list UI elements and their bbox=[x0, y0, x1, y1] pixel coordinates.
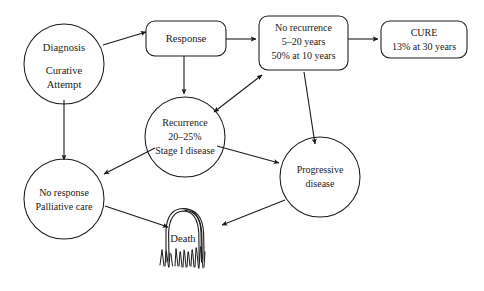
no-response-circle bbox=[24, 159, 104, 239]
recurrence-label-line2: 20–25% bbox=[168, 131, 201, 142]
no-response-label-line2: Palliative care bbox=[36, 201, 93, 212]
diagnosis-label-line2: Curative bbox=[46, 65, 83, 76]
node-response[interactable]: Response bbox=[146, 21, 226, 56]
edge-no-recurrence-to-progressive bbox=[304, 72, 315, 144]
cure-label-line2: 13% at 30 years bbox=[392, 41, 456, 52]
diagnosis-label-line3: Attempt bbox=[47, 79, 82, 90]
death-label: Death bbox=[170, 233, 196, 244]
flow-diagram-canvas: Diagnosis Curative Attempt Response No r… bbox=[0, 0, 484, 291]
cure-label-line1: CURE bbox=[411, 27, 438, 38]
flow-diagram-svg: Diagnosis Curative Attempt Response No r… bbox=[0, 0, 484, 291]
progressive-disease-circle bbox=[280, 137, 360, 217]
edge-no-response-to-death bbox=[105, 206, 168, 227]
node-progressive-disease[interactable]: Progressive disease bbox=[280, 137, 360, 217]
diagnosis-label-line1: Diagnosis bbox=[43, 42, 85, 53]
no-recurrence-label-line3: 50% at 10 years bbox=[271, 50, 335, 61]
node-diagnosis[interactable]: Diagnosis Curative Attempt bbox=[24, 24, 104, 104]
node-no-recurrence[interactable]: No recurrence 5–20 years 50% at 10 years bbox=[259, 16, 348, 70]
no-recurrence-label-line1: No recurrence bbox=[275, 22, 332, 33]
node-no-response[interactable]: No response Palliative care bbox=[24, 159, 104, 239]
node-recurrence[interactable]: Recurrence 20–25% Stage I disease bbox=[145, 97, 225, 177]
no-recurrence-label-line2: 5–20 years bbox=[282, 36, 326, 47]
progressive-disease-label-line2: disease bbox=[306, 178, 335, 189]
edge-recurrence-no-recurrence-bidirectional bbox=[214, 75, 262, 112]
node-cure[interactable]: CURE 13% at 30 years bbox=[381, 21, 467, 58]
node-death[interactable]: Death bbox=[160, 209, 205, 269]
recurrence-label-line1: Recurrence bbox=[162, 117, 208, 128]
diagnosis-circle bbox=[24, 24, 104, 104]
no-response-label-line1: No response bbox=[39, 187, 89, 198]
death-grass-hatching bbox=[160, 247, 205, 268]
edge-progressive-to-death bbox=[222, 200, 285, 225]
progressive-disease-label-line1: Progressive bbox=[297, 164, 344, 175]
response-label: Response bbox=[166, 33, 207, 44]
edges-layer bbox=[64, 32, 378, 227]
edge-diagnosis-to-response bbox=[103, 32, 146, 45]
recurrence-label-line3: Stage I disease bbox=[155, 145, 215, 156]
edge-recurrence-to-progressive bbox=[217, 146, 279, 163]
